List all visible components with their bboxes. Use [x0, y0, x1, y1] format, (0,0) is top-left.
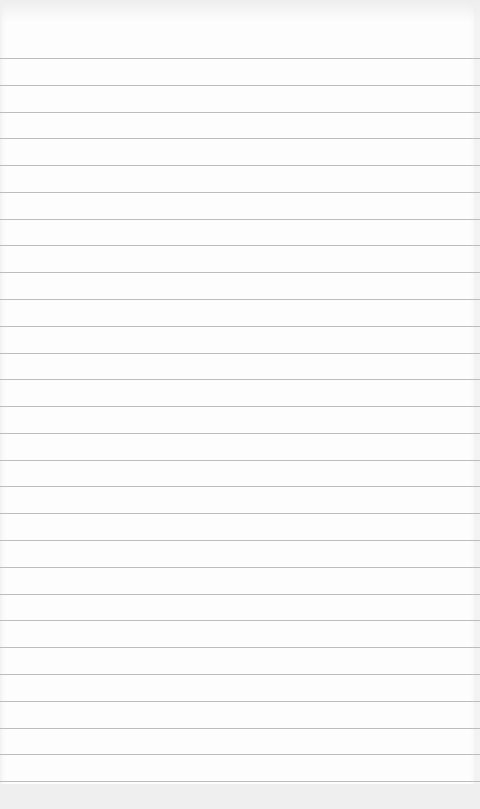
notepad-paper	[2, 2, 474, 806]
rule-line	[0, 353, 480, 354]
rule-line	[0, 379, 480, 380]
rule-line	[0, 567, 480, 568]
rule-line	[0, 647, 480, 648]
rule-line	[0, 486, 480, 487]
rule-line	[0, 85, 480, 86]
rule-line	[0, 326, 480, 327]
rule-line	[0, 674, 480, 675]
rule-line	[0, 594, 480, 595]
rule-line	[0, 406, 480, 407]
rule-line	[0, 219, 480, 220]
rule-line	[0, 58, 480, 59]
paper-top-edge	[0, 0, 480, 22]
rule-line	[0, 138, 480, 139]
rule-line	[0, 245, 480, 246]
rule-line	[0, 272, 480, 273]
rule-line	[0, 299, 480, 300]
paper-bottom-edge	[0, 784, 480, 809]
rule-line	[0, 781, 480, 782]
rule-line	[0, 460, 480, 461]
rule-line	[0, 701, 480, 702]
rule-line	[0, 540, 480, 541]
rule-line	[0, 165, 480, 166]
rule-line	[0, 513, 480, 514]
rule-line	[0, 620, 480, 621]
rule-line	[0, 754, 480, 755]
rule-line	[0, 728, 480, 729]
rule-line	[0, 192, 480, 193]
rule-line	[0, 112, 480, 113]
rule-line	[0, 433, 480, 434]
